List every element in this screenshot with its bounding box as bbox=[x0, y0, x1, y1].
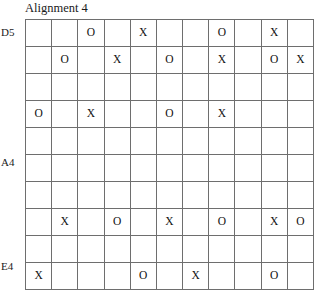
grid-cell[interactable] bbox=[78, 155, 104, 182]
grid-cell[interactable] bbox=[156, 74, 182, 101]
grid-cell[interactable] bbox=[78, 236, 104, 263]
grid-cell[interactable]: O bbox=[130, 263, 156, 290]
grid-cell[interactable] bbox=[52, 128, 78, 155]
grid-cell[interactable]: X bbox=[261, 209, 287, 236]
grid-cell[interactable] bbox=[52, 263, 78, 290]
grid-cell[interactable] bbox=[26, 182, 52, 209]
grid-cell[interactable] bbox=[235, 20, 261, 47]
grid-cell[interactable] bbox=[104, 74, 130, 101]
grid-cell[interactable] bbox=[26, 155, 52, 182]
grid-cell[interactable] bbox=[235, 236, 261, 263]
grid-cell[interactable] bbox=[52, 20, 78, 47]
grid-cell[interactable] bbox=[183, 128, 209, 155]
grid-cell[interactable] bbox=[235, 47, 261, 74]
grid-cell[interactable] bbox=[78, 47, 104, 74]
grid-cell[interactable] bbox=[183, 74, 209, 101]
grid-cell[interactable] bbox=[130, 101, 156, 128]
grid-cell[interactable] bbox=[52, 182, 78, 209]
grid-cell[interactable] bbox=[26, 209, 52, 236]
grid-cell[interactable] bbox=[52, 101, 78, 128]
grid-cell[interactable] bbox=[261, 155, 287, 182]
grid-cell[interactable] bbox=[183, 182, 209, 209]
grid-cell[interactable] bbox=[130, 74, 156, 101]
grid-cell[interactable]: O bbox=[209, 209, 235, 236]
grid-cell[interactable]: X bbox=[104, 47, 130, 74]
grid-cell[interactable] bbox=[78, 74, 104, 101]
grid-cell[interactable]: X bbox=[26, 263, 52, 290]
grid-cell[interactable] bbox=[287, 182, 313, 209]
grid-cell[interactable] bbox=[104, 182, 130, 209]
grid-cell[interactable] bbox=[52, 236, 78, 263]
grid-cell[interactable]: O bbox=[287, 209, 313, 236]
grid-cell[interactable] bbox=[235, 74, 261, 101]
grid-cell[interactable] bbox=[26, 20, 52, 47]
grid-cell[interactable] bbox=[130, 155, 156, 182]
grid-cell[interactable] bbox=[130, 47, 156, 74]
grid-cell[interactable] bbox=[26, 128, 52, 155]
grid-cell[interactable]: O bbox=[261, 47, 287, 74]
grid-cell[interactable]: O bbox=[209, 20, 235, 47]
grid-cell[interactable] bbox=[183, 20, 209, 47]
grid-cell[interactable] bbox=[78, 182, 104, 209]
grid-cell[interactable] bbox=[156, 236, 182, 263]
grid-cell[interactable] bbox=[156, 20, 182, 47]
grid-cell[interactable] bbox=[26, 47, 52, 74]
grid-cell[interactable]: X bbox=[261, 20, 287, 47]
grid-cell[interactable]: O bbox=[78, 20, 104, 47]
grid-cell[interactable]: X bbox=[156, 209, 182, 236]
grid-cell[interactable] bbox=[156, 128, 182, 155]
grid-cell[interactable] bbox=[287, 236, 313, 263]
grid-cell[interactable] bbox=[287, 155, 313, 182]
grid-cell[interactable] bbox=[287, 74, 313, 101]
grid-cell[interactable] bbox=[287, 101, 313, 128]
grid-cell[interactable]: O bbox=[52, 47, 78, 74]
grid-cell[interactable] bbox=[104, 236, 130, 263]
grid-cell[interactable]: X bbox=[209, 47, 235, 74]
grid-cell[interactable] bbox=[235, 182, 261, 209]
grid-cell[interactable] bbox=[209, 236, 235, 263]
grid-cell[interactable] bbox=[104, 128, 130, 155]
grid-cell[interactable] bbox=[235, 128, 261, 155]
grid-cell[interactable] bbox=[52, 74, 78, 101]
grid-cell[interactable] bbox=[261, 236, 287, 263]
grid-cell[interactable]: X bbox=[130, 20, 156, 47]
grid-cell[interactable] bbox=[78, 263, 104, 290]
grid-cell[interactable]: X bbox=[183, 263, 209, 290]
grid-cell[interactable] bbox=[156, 155, 182, 182]
grid-cell[interactable] bbox=[209, 74, 235, 101]
grid-cell[interactable] bbox=[287, 263, 313, 290]
grid-cell[interactable] bbox=[183, 155, 209, 182]
grid-cell[interactable] bbox=[261, 128, 287, 155]
grid-cell[interactable] bbox=[104, 155, 130, 182]
grid-cell[interactable]: X bbox=[209, 101, 235, 128]
grid-cell[interactable] bbox=[235, 209, 261, 236]
grid-cell[interactable] bbox=[78, 128, 104, 155]
grid-cell[interactable] bbox=[26, 236, 52, 263]
grid-cell[interactable] bbox=[78, 209, 104, 236]
grid-cell[interactable] bbox=[209, 128, 235, 155]
grid-cell[interactable] bbox=[235, 101, 261, 128]
grid-cell[interactable] bbox=[183, 236, 209, 263]
grid-cell[interactable] bbox=[104, 101, 130, 128]
grid-cell[interactable] bbox=[104, 263, 130, 290]
grid-cell[interactable] bbox=[183, 209, 209, 236]
grid-cell[interactable]: X bbox=[52, 209, 78, 236]
grid-cell[interactable] bbox=[183, 47, 209, 74]
grid-cell[interactable] bbox=[209, 182, 235, 209]
grid-cell[interactable] bbox=[130, 128, 156, 155]
grid-cell[interactable]: O bbox=[261, 263, 287, 290]
grid-cell[interactable] bbox=[287, 128, 313, 155]
grid-cell[interactable] bbox=[156, 263, 182, 290]
grid-cell[interactable] bbox=[287, 20, 313, 47]
grid-cell[interactable] bbox=[26, 74, 52, 101]
grid-cell[interactable] bbox=[183, 101, 209, 128]
grid-cell[interactable] bbox=[130, 236, 156, 263]
grid-cell[interactable] bbox=[52, 155, 78, 182]
grid-cell[interactable]: X bbox=[287, 47, 313, 74]
grid-cell[interactable] bbox=[235, 155, 261, 182]
grid-cell[interactable] bbox=[209, 263, 235, 290]
grid-cell[interactable] bbox=[104, 20, 130, 47]
grid-cell[interactable] bbox=[209, 155, 235, 182]
grid-cell[interactable] bbox=[235, 263, 261, 290]
grid-cell[interactable]: O bbox=[26, 101, 52, 128]
